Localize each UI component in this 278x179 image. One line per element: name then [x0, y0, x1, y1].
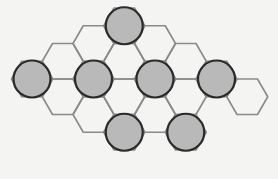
occupied-node	[14, 61, 51, 98]
occupied-node	[198, 61, 235, 98]
occupied-node	[137, 61, 174, 98]
occupied-node	[106, 7, 143, 44]
hex-lattice-svg	[0, 0, 278, 179]
hex-lattice-figure	[0, 0, 278, 179]
occupied-node	[75, 61, 112, 98]
occupied-node	[167, 114, 204, 151]
occupied-node	[106, 114, 143, 151]
